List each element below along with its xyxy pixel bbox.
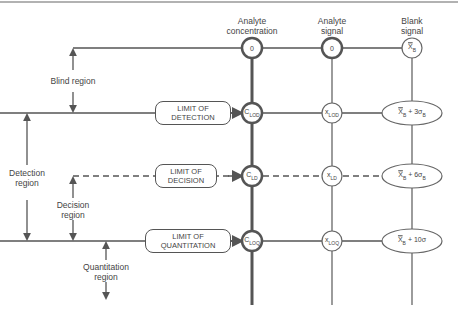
limit-of-detection-box: LIMIT OF DETECTION xyxy=(155,101,231,125)
box-line: DETECTION xyxy=(171,113,214,122)
region-line: Detection xyxy=(2,168,52,178)
blank-node-6sigma: XB + 6σB xyxy=(398,171,426,180)
header-line: concentration xyxy=(222,26,282,36)
decision-region-label: Decision region xyxy=(48,200,98,220)
blind-region-label: Blind region xyxy=(48,76,98,86)
signal-node-zero: 0 xyxy=(330,45,334,52)
signal-node-lod: xLOD xyxy=(325,108,339,117)
node-sub: LD xyxy=(331,175,337,181)
header-analyte-signal: Analyte signal xyxy=(302,16,362,36)
box-line: DECISION xyxy=(168,176,204,185)
box-line: LIMIT OF xyxy=(177,104,209,113)
region-line: region xyxy=(2,178,52,188)
node-sub: LD xyxy=(251,175,257,181)
header-line: Analyte xyxy=(302,16,362,26)
node-sub: LOQ xyxy=(249,240,260,246)
region-line: region xyxy=(76,272,136,282)
node-sub: B xyxy=(422,175,425,181)
header-line: signal xyxy=(302,26,362,36)
blank-node-3sigma: XB + 3σB xyxy=(398,108,426,117)
node-rest: + 6σ xyxy=(406,171,422,178)
region-line: Quantitation xyxy=(76,262,136,272)
box-line: QUANTITATION xyxy=(161,241,216,250)
limit-of-quantitation-box: LIMIT OF QUANTITATION xyxy=(145,229,231,253)
limit-of-decision-box: LIMIT OF DECISION xyxy=(155,164,217,188)
signal-node-ld: xLD xyxy=(327,171,337,180)
header-blank-signal: Blank signal xyxy=(382,16,442,36)
box-line: LIMIT OF xyxy=(170,167,202,176)
node-sub: B xyxy=(413,47,416,53)
node-rest: + 3σ xyxy=(406,108,422,115)
region-line: Decision xyxy=(48,200,98,210)
quantitation-region-label: Quantitation region xyxy=(76,262,136,282)
conc-node-ld: CLD xyxy=(246,171,257,180)
detection-region-label: Detection region xyxy=(2,168,52,188)
header-line: signal xyxy=(382,26,442,36)
node-sub: LOD xyxy=(249,112,259,118)
node-sub: LOQ xyxy=(328,240,339,246)
header-analyte-concentration: Analyte concentration xyxy=(222,16,282,36)
blank-node-10sigma: XB + 10σ xyxy=(398,236,426,245)
box-line: LIMIT OF xyxy=(172,232,204,241)
header-line: Analyte xyxy=(222,16,282,26)
diagram-lines xyxy=(0,0,458,320)
node-sub: LOD xyxy=(329,112,339,118)
region-line: region xyxy=(48,210,98,220)
node-sub: B xyxy=(422,112,425,118)
conc-node-lod: CLOD xyxy=(244,108,259,117)
header-line: Blank xyxy=(382,16,442,26)
conc-node-loq: CLOQ xyxy=(244,236,260,245)
blank-node-mean: XB xyxy=(408,43,416,52)
node-rest: + 10σ xyxy=(406,236,426,243)
signal-node-loq: xLOQ xyxy=(325,236,339,245)
conc-node-zero: 0 xyxy=(250,45,254,52)
